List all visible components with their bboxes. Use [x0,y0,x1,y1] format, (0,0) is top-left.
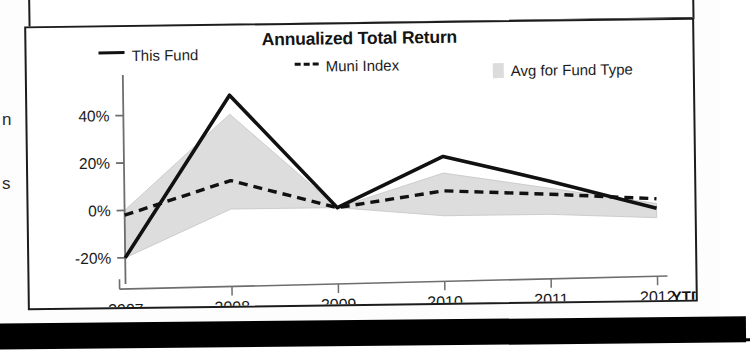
edge-text-fragment-s: s [2,174,11,194]
x-axis-tick-label: 2009 [321,296,357,309]
y-axis-tick-label: -20% [75,250,112,267]
y-axis-line [123,75,126,284]
x-axis-tick-label: 2012 [640,288,676,305]
x-axis-tick-label: 2008 [214,298,250,308]
x-axis-tick-label: 2010 [427,293,463,308]
x-axis-line [120,276,668,289]
x-axis-tick-label: 2007 [108,301,144,309]
chart-panel: Annualized Total Return This Fund Muni I… [24,18,698,311]
y-axis-tick-label: 0% [88,202,111,219]
line-chart-plot: 40%20%0%-20%200720082009201020112012YTD [26,20,696,309]
y-axis-tick-label: 40% [78,107,109,124]
edge-text-fragment-n: n [2,110,11,130]
x-axis-tick-label: 2011 [534,291,569,308]
y-axis-tick-label: 20% [79,155,110,172]
x-axis-ytd-label: YTD [672,288,696,305]
